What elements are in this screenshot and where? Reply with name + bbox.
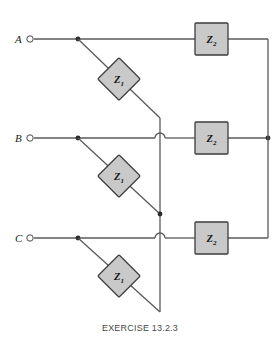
- terminal-circle-a: [27, 36, 33, 42]
- junction-dot-diagonal-b-end: [158, 212, 163, 217]
- row-A: A: [14, 33, 268, 45]
- impedance-z1-b-subscript: 1: [120, 177, 124, 185]
- terminal-circle-b: [27, 135, 33, 141]
- branch-c-z1: Z1: [78, 238, 160, 312]
- circuit-schematic: A B C: [0, 0, 280, 348]
- branch-b-z1: Z1: [78, 138, 162, 216]
- terminal-label-b: B: [15, 132, 22, 144]
- impedance-z2-c-subscript: 2: [212, 239, 217, 247]
- row-C: C: [15, 232, 268, 244]
- impedance-box-z2-a: Z2: [195, 23, 228, 55]
- terminal-circle-c: [27, 235, 33, 241]
- circuit-diagram-figure: A B C: [0, 0, 280, 348]
- branch-a-z1: Z1: [78, 39, 160, 118]
- terminal-label-a: A: [14, 33, 22, 45]
- impedance-box-z2-c: Z2: [195, 222, 228, 254]
- figure-caption: EXERCISE 13.2.3: [102, 323, 178, 333]
- impedance-box-z2-b: Z2: [195, 122, 228, 154]
- impedance-z1-a-subscript: 1: [120, 80, 124, 88]
- row-B: B: [15, 132, 270, 144]
- impedance-z1-c-subscript: 1: [120, 277, 124, 285]
- impedance-z2-b-subscript: 2: [212, 139, 217, 147]
- impedance-z2-a-subscript: 2: [212, 40, 217, 48]
- terminal-label-c: C: [15, 232, 23, 244]
